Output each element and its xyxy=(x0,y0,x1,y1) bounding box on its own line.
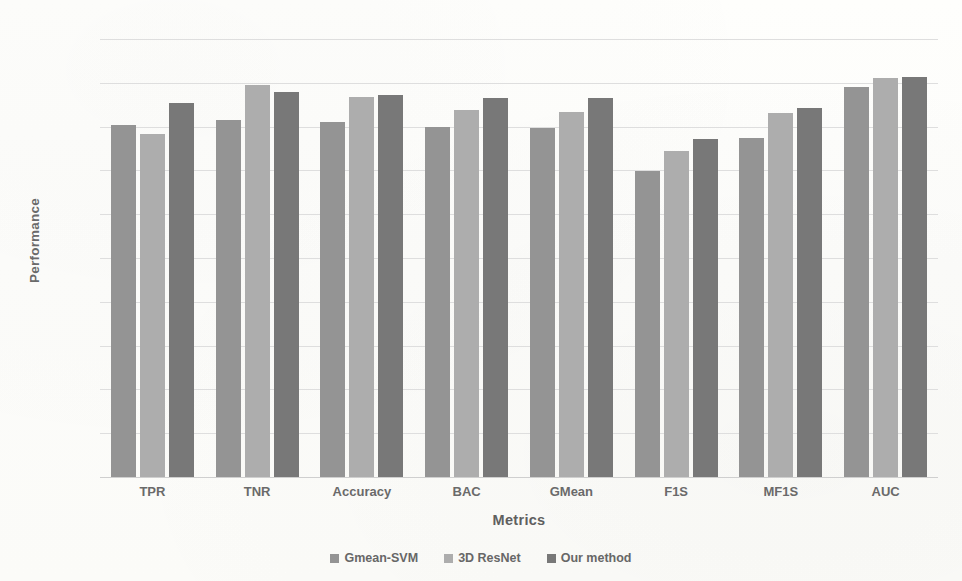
bar-mf1s-our-method xyxy=(797,108,822,477)
bar-group-f1s xyxy=(624,39,729,477)
legend-item-our-method[interactable]: Our method xyxy=(547,551,632,565)
x-tick-label-bac: BAC xyxy=(453,484,481,499)
bar-auc-gmean-svm xyxy=(844,87,869,477)
bar-tpr-our-method xyxy=(169,103,194,477)
bar-tnr-3d-resnet xyxy=(245,85,270,477)
bar-group-gmean xyxy=(519,39,624,477)
legend-label-our-method: Our method xyxy=(561,551,632,565)
bar-gmean-gmean-svm xyxy=(530,128,555,477)
x-tick-label-accuracy: Accuracy xyxy=(333,484,392,499)
bar-series-layer xyxy=(100,39,938,477)
bar-accuracy-gmean-svm xyxy=(320,122,345,477)
bar-accuracy-our-method xyxy=(378,95,403,477)
bar-f1s-our-method xyxy=(693,139,718,477)
bar-f1s-gmean-svm xyxy=(635,171,660,477)
bar-bac-our-method xyxy=(483,98,508,477)
bar-gmean-3d-resnet xyxy=(559,112,584,477)
gridline-0 xyxy=(100,477,938,478)
legend-swatch-gmean-svm xyxy=(330,554,339,563)
x-tick-label-tpr: TPR xyxy=(139,484,165,499)
plot-area: 0102030405060708090100 xyxy=(100,39,938,477)
bar-bac-3d-resnet xyxy=(454,110,479,477)
bar-group-tnr xyxy=(205,39,310,477)
x-tick-label-f1s: F1S xyxy=(664,484,688,499)
bar-gmean-our-method xyxy=(588,98,613,477)
bar-mf1s-gmean-svm xyxy=(739,138,764,477)
legend-label-3d-resnet: 3D ResNet xyxy=(458,551,521,565)
bar-group-tpr xyxy=(100,39,205,477)
x-axis-category-labels: TPRTNRAccuracyBACGMeanF1SMF1SAUC xyxy=(100,484,938,508)
bar-chart-figure: Performance 0102030405060708090100 TPRTN… xyxy=(0,0,962,581)
legend-item-gmean-svm[interactable]: Gmean-SVM xyxy=(330,551,418,565)
bar-bac-gmean-svm xyxy=(425,127,450,477)
bar-tnr-our-method xyxy=(274,92,299,477)
legend-swatch-3d-resnet xyxy=(444,554,453,563)
bar-group-accuracy xyxy=(310,39,415,477)
bar-group-mf1s xyxy=(729,39,834,477)
x-tick-label-tnr: TNR xyxy=(244,484,271,499)
x-tick-label-gmean: GMean xyxy=(550,484,593,499)
x-axis-title: Metrics xyxy=(100,512,938,528)
legend-label-gmean-svm: Gmean-SVM xyxy=(344,551,418,565)
bar-tpr-3d-resnet xyxy=(140,134,165,477)
bar-tpr-gmean-svm xyxy=(111,125,136,477)
y-axis-title: Performance xyxy=(14,0,54,480)
x-tick-label-auc: AUC xyxy=(872,484,900,499)
bar-group-bac xyxy=(414,39,519,477)
legend-item-3d-resnet[interactable]: 3D ResNet xyxy=(444,551,521,565)
y-axis-title-label: Performance xyxy=(27,198,42,283)
x-tick-label-mf1s: MF1S xyxy=(764,484,799,499)
chart-legend: Gmean-SVM3D ResNetOur method xyxy=(0,551,962,565)
bar-auc-our-method xyxy=(902,77,927,477)
bar-group-auc xyxy=(833,39,938,477)
bar-tnr-gmean-svm xyxy=(216,120,241,477)
bar-accuracy-3d-resnet xyxy=(349,97,374,477)
bar-f1s-3d-resnet xyxy=(664,151,689,477)
bar-mf1s-3d-resnet xyxy=(768,113,793,477)
legend-swatch-our-method xyxy=(547,554,556,563)
bar-auc-3d-resnet xyxy=(873,78,898,477)
